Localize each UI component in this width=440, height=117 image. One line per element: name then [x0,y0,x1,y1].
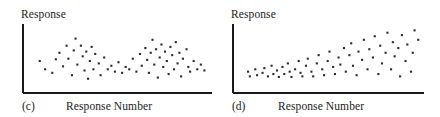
scatter-point [361,59,363,61]
scatter-point [132,58,134,60]
scatter-point [278,76,280,78]
scatter-point [372,56,374,58]
scatter-point [321,68,323,70]
scatter-point [390,68,392,70]
scatter-point [74,38,76,40]
scatter-point [332,66,334,68]
panel-c-caption-row: (c) Response Number [0,99,220,115]
scatter-point [135,71,137,73]
scatter-point [114,71,116,73]
scatter-point [350,42,352,44]
scatter-point [71,74,73,76]
scatter-point [82,55,84,57]
scatter-point [121,72,123,74]
scatter-point [412,52,414,54]
scatter-point [276,69,278,71]
scatter-point [76,64,78,66]
scatter-point [178,52,180,54]
scatter-point [185,48,187,50]
scatter-point [73,49,75,51]
scatter-point [381,62,383,64]
scatter-point [150,52,152,54]
scatter-point [287,62,289,64]
scatter-point [148,72,150,74]
scatter-point [159,56,161,58]
scatter-point [171,54,173,56]
scatter-point [401,34,403,36]
scatter-point [339,64,341,66]
scatter-point [392,41,394,43]
scatter-point [203,69,205,71]
scatter-point [366,68,368,70]
scatter-point [327,60,329,62]
scatter-point [87,78,89,80]
scatter-point [92,68,94,70]
scatter-point [169,46,171,48]
scatter-point [155,48,157,50]
scatter-point [294,68,296,70]
figure-container: Response (c) Response Number Response (d… [0,0,440,117]
scatter-point [363,39,365,41]
panel-d: Response (d) Response Number [220,0,440,117]
scatter-point [357,51,359,53]
scatter-points [39,38,206,80]
scatter-point [80,45,82,47]
scatter-point [166,60,168,62]
scatter-point [271,65,273,67]
scatter-point [299,72,301,74]
scatter-point [352,65,354,67]
scatter-point [312,75,314,77]
scatter-point [100,74,102,76]
scatter-point [379,45,381,47]
scatter-point [200,64,202,66]
scatter-point [414,29,416,31]
scatter-point [125,66,127,68]
scatter-point [261,72,263,74]
scatter-point [94,53,96,55]
scatter-point [404,60,406,62]
scatter-point [151,39,153,41]
panel-c-x-axis-label: Response Number [66,101,152,113]
scatter-point [301,75,303,77]
scatter-point [272,73,274,75]
scatter-point [307,58,309,60]
scatter-point [91,46,93,48]
scatter-point [144,47,146,49]
scatter-point [343,47,345,49]
scatter-point [290,76,292,78]
scatter-point [397,47,399,49]
scatter-point [338,56,340,58]
scatter-point [345,71,347,73]
scatter-point [289,71,291,73]
panel-d-caption-row: (d) Response Number [220,99,440,115]
scatter-point [189,71,191,73]
scatter-point [399,75,401,77]
scatter-point [193,60,195,62]
panel-d-letter: (d) [232,101,245,113]
scatter-point [394,55,396,57]
panel-d-x-axis-label: Response Number [278,101,364,113]
scatter-point [117,61,119,63]
scatter-point [410,71,412,73]
scatter-point [67,58,69,60]
scatter-point [298,60,300,62]
scatter-point [89,60,91,62]
scatter-point [103,56,105,58]
scatter-point [263,67,265,69]
scatter-point [368,48,370,50]
scatter-point [316,62,318,64]
scatter-point [385,52,387,54]
scatter-point [107,68,109,70]
scatter-point [168,73,170,75]
axis-lines [233,24,424,93]
scatter-point [318,54,320,56]
scatter-point [173,68,175,70]
panel-c-letter: (c) [22,101,35,113]
scatter-point [356,74,358,76]
scatter-point [51,72,53,74]
scatter-point [83,69,85,71]
scatter-point [44,68,46,70]
scatter-point [162,66,164,68]
scatter-point [328,51,330,53]
scatter-point [157,77,159,79]
